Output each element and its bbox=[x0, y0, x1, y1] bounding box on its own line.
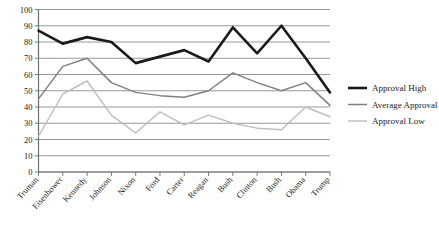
x-category-label: Nixon bbox=[116, 174, 138, 197]
x-category-label: Johnson bbox=[87, 174, 114, 202]
y-tick-label: 30 bbox=[24, 118, 33, 128]
x-category-label: Clinton bbox=[234, 174, 259, 200]
approval-ratings-chart: 0102030405060708090100 TrumanEisenhowerK… bbox=[0, 0, 439, 237]
series-line-average-approval bbox=[39, 58, 331, 105]
y-tick-label: 70 bbox=[24, 53, 33, 63]
chart-canvas: 0102030405060708090100 TrumanEisenhowerK… bbox=[0, 0, 439, 237]
y-tick-label: 90 bbox=[24, 21, 33, 31]
x-axis-category-labels: TrumanEisenhowerKennedyJohnsonNixonFordC… bbox=[15, 174, 332, 211]
y-tick-label: 40 bbox=[24, 102, 33, 112]
y-tick-label: 100 bbox=[20, 5, 33, 15]
x-category-label: Bush bbox=[264, 174, 284, 194]
x-category-label: Bush bbox=[215, 174, 235, 194]
legend-label: Average Approval bbox=[372, 100, 438, 110]
y-tick-label: 50 bbox=[24, 86, 33, 96]
x-category-label: Ford bbox=[143, 174, 162, 193]
y-tick-label: 10 bbox=[24, 151, 33, 161]
x-axis-tick-marks bbox=[39, 172, 331, 176]
legend-label: Approval Low bbox=[372, 116, 425, 126]
y-tick-label: 20 bbox=[24, 135, 33, 145]
legend-label: Approval High bbox=[372, 83, 427, 93]
x-category-label: Obama bbox=[283, 174, 307, 199]
y-tick-label: 60 bbox=[24, 70, 33, 80]
x-category-label: Kennedy bbox=[61, 174, 89, 204]
y-axis-tick-labels: 0102030405060708090100 bbox=[20, 5, 39, 178]
x-category-label: Trump bbox=[309, 175, 332, 199]
x-category-label: Carter bbox=[164, 175, 186, 198]
y-tick-label: 80 bbox=[24, 37, 33, 47]
series-line-approval-high bbox=[39, 26, 331, 93]
x-category-label: Reagan bbox=[186, 174, 211, 200]
chart-legend: Approval HighAverage ApprovalApproval Lo… bbox=[348, 83, 438, 126]
